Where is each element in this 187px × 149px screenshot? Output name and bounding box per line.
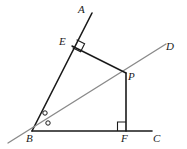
- angle-mark-lower-icon: [46, 121, 50, 125]
- ray-BA-line: [32, 13, 92, 131]
- vertex-label-B: B: [26, 133, 33, 144]
- vertex-label-D: D: [166, 41, 174, 52]
- segment-EP-line: [72, 46, 126, 73]
- vertex-label-A: A: [78, 4, 85, 15]
- vertex-label-F: F: [121, 133, 128, 144]
- angle-mark-upper-icon: [43, 111, 47, 115]
- vertex-label-E: E: [59, 36, 66, 47]
- vertex-label-P: P: [128, 71, 135, 82]
- geometry-canvas: [0, 0, 187, 149]
- vertex-label-C: C: [153, 133, 160, 144]
- geometry-figure: A E D P B F C: [0, 0, 187, 149]
- right-angle-at-F-icon: [118, 122, 127, 131]
- ray-BD-line: [8, 44, 166, 143]
